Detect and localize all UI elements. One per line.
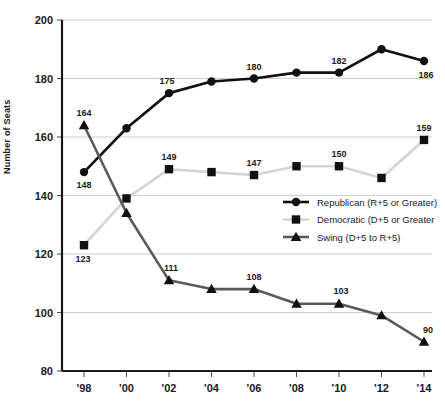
- y-tick-label: 200: [35, 14, 53, 26]
- data-point-marker: [335, 162, 343, 170]
- data-point-marker: [292, 198, 300, 206]
- x-tick-label: '06: [247, 382, 262, 394]
- series-line: [84, 140, 424, 245]
- data-point-marker: [377, 45, 385, 53]
- y-tick-label: 180: [35, 73, 53, 85]
- point-value-label: 164: [76, 108, 91, 118]
- data-point-marker: [207, 77, 215, 85]
- data-point-marker: [80, 241, 88, 249]
- data-point-marker: [122, 194, 130, 202]
- y-axis-tick-labels: 80100120140160180200: [35, 14, 53, 377]
- y-tick-label: 80: [41, 365, 53, 377]
- data-point-marker: [121, 208, 132, 217]
- point-value-label: 123: [75, 254, 90, 264]
- y-tick-label: 100: [35, 307, 53, 319]
- data-point-marker: [122, 124, 130, 132]
- point-value-label: 180: [246, 62, 261, 72]
- data-point-marker: [250, 171, 258, 179]
- point-value-label: 182: [331, 56, 346, 66]
- legend-item-swing[interactable]: Swing (D+5 to R+5): [283, 232, 400, 243]
- point-value-label: 103: [333, 286, 348, 296]
- x-tick-label: '14: [417, 382, 433, 394]
- data-point-marker: [165, 89, 173, 97]
- data-point-marker: [292, 68, 300, 76]
- point-value-label: 90: [423, 325, 433, 335]
- data-point-marker: [79, 120, 90, 129]
- data-point-marker: [207, 168, 215, 176]
- x-tick-label: '08: [289, 382, 304, 394]
- plot-area: 80100120140160180200 '98'00'02'04'06'08'…: [0, 0, 445, 407]
- data-point-marker: [292, 215, 300, 223]
- point-value-label: 175: [159, 76, 174, 86]
- data-point-marker: [419, 337, 430, 346]
- legend-item-democratic[interactable]: Democratic (D+5 or Greater: [283, 214, 434, 225]
- data-point-marker: [165, 165, 173, 173]
- y-tick-label: 120: [35, 248, 53, 260]
- x-tick-label: '10: [332, 382, 347, 394]
- point-value-label: 108: [246, 272, 261, 282]
- y-tick-label: 160: [35, 131, 53, 143]
- data-point-marker: [250, 74, 258, 82]
- point-value-label: 150: [331, 149, 346, 159]
- y-tick-label: 140: [35, 190, 53, 202]
- data-point-marker: [420, 136, 428, 144]
- chart-legend: Republican (R+5 or Greater)Democratic (D…: [283, 197, 437, 243]
- x-tick-label: '04: [204, 382, 220, 394]
- legend-label: Democratic (D+5 or Greater: [317, 214, 434, 225]
- point-value-label: 147: [246, 158, 261, 168]
- legend-label: Swing (D+5 to R+5): [317, 232, 400, 243]
- point-value-label: 159: [416, 123, 431, 133]
- point-value-label: 148: [76, 180, 91, 190]
- x-tick-label: '12: [374, 382, 389, 394]
- point-value-label: 149: [161, 152, 176, 162]
- data-point-marker: [80, 168, 88, 176]
- legend-item-republican[interactable]: Republican (R+5 or Greater): [283, 197, 437, 208]
- point-value-label: 186: [418, 70, 433, 80]
- seats-line-chart: Number of Seats 80100120140160180200 '98…: [0, 0, 445, 407]
- x-tick-label: '98: [77, 382, 92, 394]
- point-value-label: 111: [164, 263, 178, 273]
- data-point-marker: [420, 57, 428, 65]
- x-tick-label: '00: [119, 382, 134, 394]
- legend-label: Republican (R+5 or Greater): [317, 197, 437, 208]
- x-axis-tick-labels: '98'00'02'04'06'08'10'12'14: [77, 382, 433, 394]
- data-point-marker: [377, 174, 385, 182]
- x-tick-label: '02: [162, 382, 177, 394]
- data-point-marker: [292, 162, 300, 170]
- data-point-marker: [335, 68, 343, 76]
